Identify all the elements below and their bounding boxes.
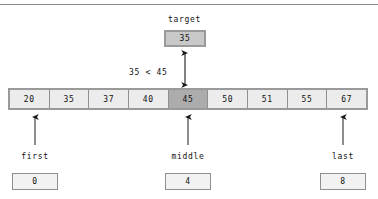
pointer-label-middle: middle	[159, 152, 217, 162]
pointer-value-middle: 4	[165, 173, 211, 190]
pointer-label-first: first	[12, 152, 58, 162]
array-cell: 40	[129, 90, 169, 108]
top-divider	[0, 4, 378, 5]
array-cell: 55	[288, 90, 328, 108]
binary-search-diagram: target 35 35 < 45 20 35 37 40 45 50 51 5…	[0, 0, 378, 199]
pointer-value-first: 0	[12, 173, 58, 190]
array-cell: 35	[50, 90, 90, 108]
comparison-label: 35 < 45	[129, 68, 168, 78]
array-cell-highlighted: 45	[169, 90, 209, 108]
array-cell: 67	[327, 90, 366, 108]
array-cell: 50	[208, 90, 248, 108]
pointer-label-last: last	[320, 152, 366, 162]
target-label: target	[168, 15, 201, 25]
array-cell: 20	[10, 90, 50, 108]
array-cell: 51	[248, 90, 288, 108]
target-value-box: 35	[164, 30, 206, 47]
pointer-value-last: 8	[320, 173, 366, 190]
array-row: 20 35 37 40 45 50 51 55 67	[8, 88, 368, 110]
array-cell: 37	[89, 90, 129, 108]
